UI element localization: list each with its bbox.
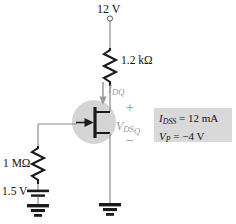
ground-icon-source [99, 203, 121, 216]
drain-resistor-symbol [104, 48, 116, 86]
supply-voltage-label: 12 V [97, 3, 120, 15]
vds-subscript-q: Q [134, 126, 140, 136]
gate-resistor-label: 1 MΩ [3, 158, 30, 170]
gate-resistor-symbol [32, 146, 44, 184]
device-specs-box: IDSS = 12 mA VP = −4 V [154, 108, 232, 142]
drain-current-label: IDQ [108, 83, 124, 97]
battery-symbol [27, 190, 49, 197]
vds-plus-sign: + [126, 101, 134, 115]
spec-vp-subscript: P [166, 134, 171, 143]
spec-idss-line: IDSS = 12 mA [159, 111, 228, 129]
spec-idss-subscript: DSS [163, 117, 177, 126]
spec-vp-value: = −4 V [173, 130, 204, 142]
drain-resistor-label: 1.2 kΩ [121, 55, 153, 67]
spec-idss-value: = 12 mA [179, 112, 218, 124]
circuit-diagram: 12 V 1.2 kΩ 1 MΩ 1.5 V IDQ + VDSQ − IDSS… [0, 0, 236, 224]
spec-vp-symbol: V [159, 130, 166, 142]
gate-source-label: 1.5 V [2, 186, 27, 198]
spec-vp-line: VP = −4 V [159, 129, 228, 147]
supply-terminal-icon [107, 16, 112, 21]
drain-current-subscript: DQ [112, 87, 124, 97]
ground-icon-gate [27, 204, 49, 217]
vds-minus-sign: − [126, 134, 134, 148]
